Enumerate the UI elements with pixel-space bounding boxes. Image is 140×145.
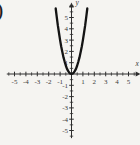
x-tick-label: -5 (12, 78, 18, 86)
y-tick-label: -2 (62, 93, 68, 101)
y-axis-letter: y (75, 0, 80, 7)
y-tick-label: 2 (65, 48, 69, 56)
parabola-graph: -5-4-3-2-112345-5-4-3-2-112345xy (0, 0, 140, 145)
y-tick-label: 4 (65, 25, 69, 33)
x-tick-label: -3 (34, 78, 40, 86)
x-axis-arrow-icon (136, 72, 140, 77)
x-tick-label: 5 (127, 78, 131, 86)
x-tick-label: -4 (23, 78, 29, 86)
x-tick-label: -2 (46, 78, 52, 86)
y-tick-label: -1 (62, 82, 68, 90)
x-tick-label: 1 (81, 78, 85, 86)
y-tick-label: 3 (65, 37, 69, 45)
y-tick-label: -5 (62, 127, 68, 135)
y-axis-arrow-icon (69, 2, 74, 7)
answer-choice-figure: ) -5-4-3-2-112345-5-4-3-2-112345xy (0, 0, 140, 145)
y-tick-label: -4 (62, 116, 68, 124)
x-axis-letter: x (135, 59, 140, 68)
y-tick-label: -3 (62, 104, 68, 112)
y-tick-label: 5 (65, 14, 69, 22)
x-tick-label: 4 (115, 78, 119, 86)
x-tick-label: 3 (104, 78, 108, 86)
x-tick-label: 2 (93, 78, 97, 86)
